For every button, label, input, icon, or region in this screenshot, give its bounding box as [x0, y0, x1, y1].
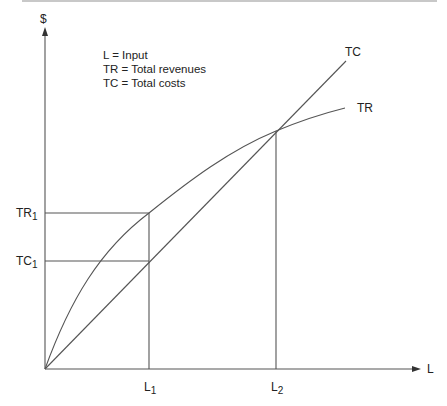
- legend-item-input: L = Input: [103, 48, 206, 62]
- diagram-canvas: [0, 0, 447, 406]
- legend-item-total-revenues: TR = Total revenues: [103, 62, 206, 76]
- tr1-label: TR1: [16, 206, 38, 224]
- tr-curve-label: TR: [357, 101, 373, 115]
- tr1-text: TR: [16, 206, 32, 220]
- l2-text: L: [271, 380, 278, 394]
- x-axis-arrow-icon: [412, 366, 421, 372]
- l1-subscript: 1: [151, 385, 157, 396]
- y-axis-label: $: [40, 12, 47, 26]
- tc1-subscript: 1: [32, 259, 38, 270]
- tc-curve: [45, 61, 346, 369]
- tc1-label: TC1: [16, 254, 38, 272]
- tc-curve-label: TC: [345, 45, 361, 59]
- tr1-subscript: 1: [32, 211, 38, 222]
- x-axis-label: L: [427, 362, 434, 376]
- legend: L = Input TR = Total revenues TC = Total…: [103, 48, 206, 90]
- tr-curve: [45, 108, 345, 369]
- tc1-text: TC: [16, 254, 32, 268]
- y-axis-arrow-icon: [42, 27, 48, 36]
- l2-subscript: 2: [278, 385, 284, 396]
- legend-item-total-costs: TC = Total costs: [103, 76, 206, 90]
- l1-text: L: [144, 380, 151, 394]
- l1-label: L1: [144, 380, 156, 398]
- l2-label: L2: [271, 380, 283, 398]
